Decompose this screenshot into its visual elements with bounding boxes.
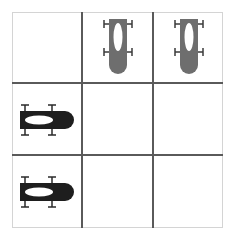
cell-r2-c1[interactable]	[83, 156, 153, 227]
race-car-icon[interactable]	[19, 175, 77, 209]
cell-r0-c0[interactable]	[12, 12, 82, 83]
race-car-icon[interactable]	[102, 18, 134, 76]
race-car-icon[interactable]	[173, 18, 205, 76]
race-car-icon[interactable]	[19, 103, 77, 137]
puzzle-stage	[0, 0, 235, 243]
cell-r1-c2[interactable]	[154, 84, 224, 155]
cell-r2-c2[interactable]	[154, 156, 224, 227]
cell-r1-c1[interactable]	[83, 84, 153, 155]
